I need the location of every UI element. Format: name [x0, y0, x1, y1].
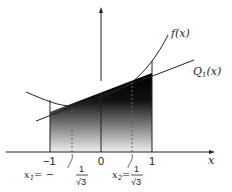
svg-text:x1= −: x1= − — [24, 169, 54, 182]
q1-label: Q1(x) — [193, 65, 221, 79]
svg-text:x2=: x2= — [112, 169, 131, 182]
y-axis-arrow-icon — [99, 7, 103, 13]
tick-1: 1 — [149, 155, 155, 167]
x-axis-label: x — [208, 154, 215, 167]
f-label: f(x) — [170, 27, 190, 40]
tick-neg1: −1 — [43, 155, 56, 167]
svg-text:√3: √3 — [76, 177, 86, 187]
svg-text:√3: √3 — [131, 177, 141, 187]
diagram-canvas: f(x) Q1(x) x −1 0 1 x1= − 1 √3 x2= 1 √3 — [0, 0, 232, 192]
x2-leader — [128, 154, 132, 168]
x2-annotation: x2= 1 √3 — [112, 164, 143, 187]
tick-0: 0 — [98, 155, 104, 167]
x1-annotation: x1= − 1 √3 — [24, 164, 88, 187]
svg-text:1: 1 — [79, 164, 84, 174]
x1-leader — [68, 154, 72, 168]
quadrature-diagram: f(x) Q1(x) x −1 0 1 x1= − 1 √3 x2= 1 √3 — [0, 0, 232, 192]
svg-text:1: 1 — [134, 164, 139, 174]
